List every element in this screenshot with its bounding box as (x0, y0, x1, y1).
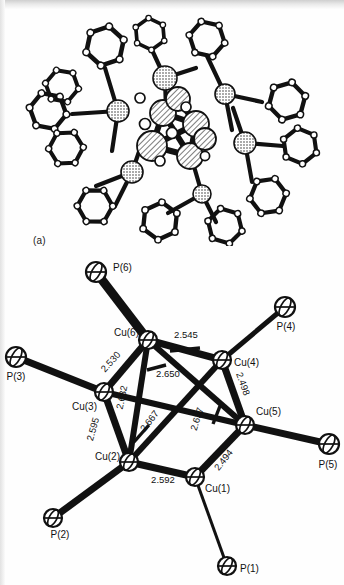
atom-P1 (218, 556, 236, 575)
atom-Cu5 (236, 415, 254, 434)
atom-label-Cu3: Cu(3) (72, 401, 97, 412)
atom-P3 (6, 346, 26, 368)
atom-label-Cu6: Cu(6) (114, 327, 139, 338)
bond-Cu(3)-P(3) (16, 357, 104, 392)
atom-Cu1 (186, 467, 204, 486)
atom-Cu4 (213, 350, 231, 369)
atom-label-Cu5: Cu(5) (256, 406, 281, 417)
atom-Cu3 (95, 382, 113, 401)
atom-label-P6: P(6) (113, 262, 132, 273)
atom-label-Cu4: Cu(4) (234, 357, 259, 368)
distance-label-Cu1-Cu5: 2.494 (212, 447, 235, 473)
distance-label-Cu6-Cu2: 2.632 (114, 384, 130, 410)
atom-label-P4: P(4) (277, 321, 296, 332)
core-skeleton-drawing: Cu(1)Cu(2)Cu(3)Cu(4)Cu(5)Cu(6)P(1)P(2)P(… (0, 250, 344, 585)
cluster-ortep-drawing (0, 6, 344, 246)
panel-a-full-cluster: (a) (0, 6, 344, 246)
bond-Cu(4)-P(4) (222, 307, 285, 360)
bond-Cu(2)-P(2) (53, 462, 129, 518)
atom-label-P2: P(2) (51, 529, 70, 540)
distance-label-Cu3-Cu2: 2.595 (84, 416, 101, 442)
atom-label-P3: P(3) (7, 371, 26, 382)
panel-b-core-skeleton: Cu(1)Cu(2)Cu(3)Cu(4)Cu(5)Cu(6)P(1)P(2)P(… (0, 250, 344, 585)
atom-Cu6 (139, 330, 157, 349)
distance-label-Cu6-Cu5: 2.650 (156, 368, 180, 379)
bond-Cu(5)-P(5) (245, 425, 329, 444)
atom-label-Cu2: Cu(2) (95, 451, 120, 462)
atom-P5 (319, 433, 339, 455)
panel-a-tag: (a) (33, 235, 46, 246)
figure-container: (a) Cu(1)Cu(2)Cu(3)Cu(4)Cu(5)Cu(6)P(1)P(… (0, 0, 344, 585)
atom-label-Cu1: Cu(1) (205, 483, 230, 494)
atom-P6 (86, 261, 106, 283)
atom-P4 (275, 296, 295, 318)
distance-label-Cu6-Cu4: 2.545 (174, 329, 198, 340)
distance-label-Cu2-Cu1: 2.592 (151, 474, 175, 485)
atom-label-P1: P(1) (240, 563, 259, 574)
atom-P2 (44, 508, 62, 527)
atom-label-P5: P(5) (319, 459, 338, 470)
atom-Cu2 (120, 452, 138, 471)
